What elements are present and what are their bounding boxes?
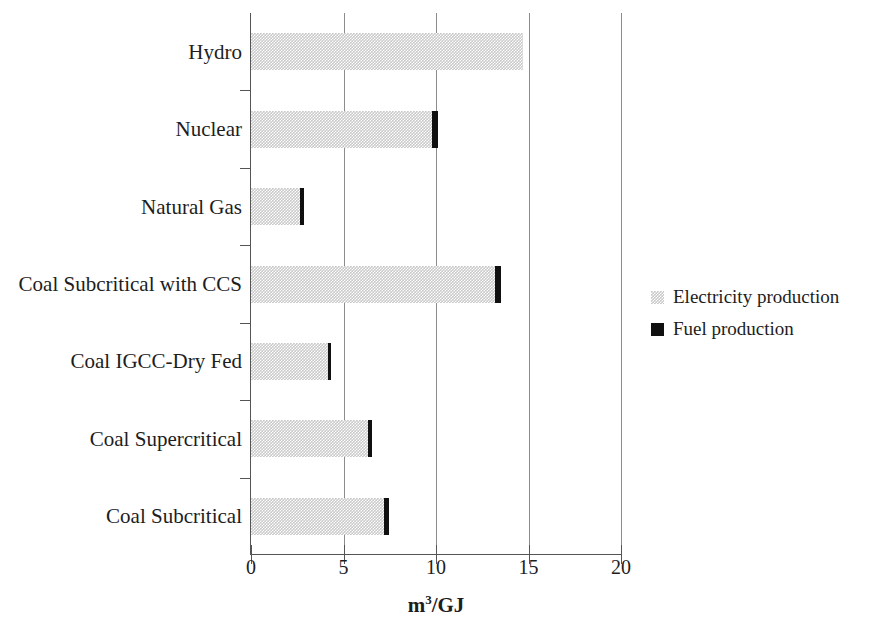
legend-item-label: Electricity production: [673, 281, 839, 313]
category-label: Natural Gas: [0, 195, 242, 219]
y-tick-1: [240, 90, 251, 91]
x-tick-label-5: 5: [339, 556, 349, 578]
black-swatch: [651, 323, 664, 336]
x-tick-label-0: 0: [246, 556, 256, 578]
plot-area: [251, 13, 621, 555]
x-axis-title-rest: /GJ: [432, 593, 465, 617]
bar-segment[interactable]: [300, 188, 304, 225]
bar-segment[interactable]: [368, 420, 373, 457]
bar-segment[interactable]: [251, 111, 432, 148]
x-tick-label-15: 15: [519, 556, 539, 578]
gridline-15: [529, 13, 530, 554]
bar-segment[interactable]: [432, 111, 438, 148]
bar-segment[interactable]: [251, 420, 368, 457]
x-axis-title: m3/GJ: [251, 592, 621, 618]
y-tick-4: [240, 323, 251, 324]
bar-segment[interactable]: [384, 498, 389, 535]
bar-segment[interactable]: [328, 343, 332, 380]
chart-legend: Electricity productionFuel production: [651, 281, 839, 345]
bar-segment[interactable]: [251, 33, 523, 70]
light-gray-dither-swatch: [651, 291, 664, 304]
gridline-20: [621, 13, 622, 554]
x-axis-title-main: m: [408, 593, 426, 617]
y-tick-5: [240, 400, 251, 401]
bar-segment[interactable]: [251, 343, 328, 380]
category-label: Coal IGCC-Dry Fed: [0, 349, 242, 373]
category-label: Coal Subcritical with CCS: [0, 272, 242, 296]
bar-segment[interactable]: [251, 266, 495, 303]
bar-segment[interactable]: [251, 498, 384, 535]
legend-item[interactable]: Fuel production: [651, 313, 839, 345]
y-tick-3: [240, 245, 251, 246]
x-tick-label-20: 20: [611, 556, 631, 578]
chart-figure: HydroNuclearNatural GasCoal Subcritical …: [0, 0, 875, 643]
legend-item[interactable]: Electricity production: [651, 281, 839, 313]
category-label: Coal Subcritical: [0, 504, 242, 528]
category-label: Hydro: [0, 40, 242, 64]
y-tick-2: [240, 168, 251, 169]
category-label: Coal Supercritical: [0, 427, 242, 451]
legend-item-label: Fuel production: [673, 313, 794, 345]
category-label: Nuclear: [0, 117, 242, 141]
bar-segment[interactable]: [495, 266, 501, 303]
bar-segment[interactable]: [251, 188, 300, 225]
x-tick-label-10: 10: [426, 556, 446, 578]
y-tick-6: [240, 478, 251, 479]
